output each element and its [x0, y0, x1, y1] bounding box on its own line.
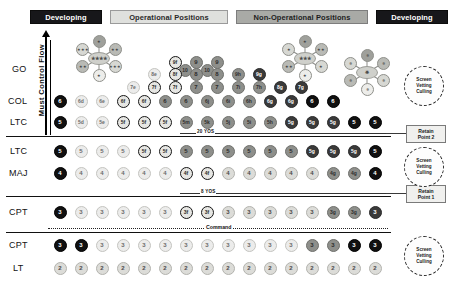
node-ltc-3-4[interactable]: 5f [138, 145, 151, 158]
node-cpt-6-7[interactable]: 3 [201, 239, 214, 252]
node-lt-7-8[interactable]: 2 [222, 262, 235, 275]
node-lt-7-11[interactable]: 2 [285, 262, 298, 275]
node-ltc-2-14[interactable]: 5 [348, 116, 361, 129]
node-maj-4-15[interactable]: 4 [369, 167, 382, 180]
node-cpt-6-15[interactable]: 3 [369, 239, 382, 252]
node-ltc-3-8[interactable]: 5 [222, 145, 235, 158]
node-cpt-6-12[interactable]: 3 [306, 239, 319, 252]
node-maj-4-1[interactable]: 4 [75, 167, 88, 180]
node-maj-4-10[interactable]: 4 [264, 167, 277, 180]
node-cpt-6-6[interactable]: 3 [180, 239, 193, 252]
node-lt-7-2[interactable]: 2 [96, 262, 109, 275]
node-col-1-11[interactable]: 6g [285, 95, 298, 108]
node-ltc-2-12[interactable]: 5g [306, 116, 319, 129]
node-ltc-3-1[interactable]: 5 [75, 145, 88, 158]
node-maj-4-13[interactable]: 4g [327, 167, 340, 180]
node-col-1-2[interactable]: 6e [96, 95, 109, 108]
node-lt-7-3[interactable]: 2 [117, 262, 130, 275]
node-lt-7-13[interactable]: 2 [327, 262, 340, 275]
node-cpt-5-4[interactable]: 3 [138, 206, 151, 219]
node-cpt-5-1[interactable]: 3 [75, 206, 88, 219]
node-cpt-5-3[interactable]: 3 [117, 206, 130, 219]
node-go-0-7[interactable]: 8 [190, 68, 203, 81]
node-maj-4-12[interactable]: 4 [306, 167, 319, 180]
node-ltc-2-7[interactable]: 5k [201, 116, 214, 129]
node-go-0-16[interactable]: 7i [232, 81, 245, 94]
node-ltc-3-11[interactable]: 5 [285, 145, 298, 158]
node-ltc-3-7[interactable]: 5 [201, 145, 214, 158]
node-lt-7-7[interactable]: 2 [201, 262, 214, 275]
node-lt-7-9[interactable]: 2 [243, 262, 256, 275]
node-cpt-5-10[interactable]: 3 [264, 206, 277, 219]
node-cpt-5-8[interactable]: 3 [222, 206, 235, 219]
node-maj-4-4[interactable]: 4 [138, 167, 151, 180]
node-cpt-5-13[interactable]: 3g [327, 206, 340, 219]
node-go-0-3[interactable]: 9 [190, 56, 203, 69]
node-lt-7-4[interactable]: 2 [138, 262, 151, 275]
node-ltc-2-3[interactable]: 5f [117, 116, 130, 129]
node-lt-7-5[interactable]: 2 [159, 262, 172, 275]
node-maj-4-7[interactable]: 4f [201, 167, 214, 180]
node-go-0-10[interactable]: 9g [253, 68, 266, 81]
node-go-0-12[interactable]: 7f [148, 81, 161, 94]
node-cpt-6-2[interactable]: 3 [96, 239, 109, 252]
node-ltc-2-9[interactable]: 5i [243, 116, 256, 129]
node-col-1-12[interactable]: 6 [306, 95, 319, 108]
node-ltc-3-14[interactable]: 5g [348, 145, 361, 158]
node-lt-7-10[interactable]: 2 [264, 262, 277, 275]
node-ltc-3-0[interactable]: 5 [54, 145, 67, 158]
node-cpt-6-8[interactable]: 3 [222, 239, 235, 252]
node-maj-4-6[interactable]: 4f [180, 167, 193, 180]
node-ltc-2-5[interactable]: 5f [159, 116, 172, 129]
node-lt-7-15[interactable]: 2 [369, 262, 382, 275]
node-col-1-0[interactable]: 6 [54, 95, 67, 108]
node-lt-7-1[interactable]: 2 [75, 262, 88, 275]
node-go-0-6[interactable]: 8f [169, 68, 182, 81]
node-maj-4-9[interactable]: 4 [243, 167, 256, 180]
node-col-1-9[interactable]: 6h [243, 95, 256, 108]
node-go-0-8[interactable]: 8 [211, 68, 224, 81]
node-lt-7-6[interactable]: 2 [180, 262, 193, 275]
node-col-1-3[interactable]: 6f [117, 95, 130, 108]
node-maj-4-8[interactable]: 4 [222, 167, 235, 180]
node-col-1-4[interactable]: 6f [138, 95, 151, 108]
node-lt-7-0[interactable]: 2 [54, 262, 67, 275]
node-col-1-10[interactable]: 6g [264, 95, 277, 108]
node-cpt-5-6[interactable]: 3f [180, 206, 193, 219]
node-ltc-2-15[interactable]: 5 [369, 116, 382, 129]
node-go-0-17[interactable]: 7h [253, 81, 266, 94]
node-cpt-6-13[interactable]: 3 [327, 239, 340, 252]
node-go-0-15[interactable]: 7 [211, 81, 224, 94]
node-ltc-2-2[interactable]: 5e [96, 116, 109, 129]
node-maj-4-14[interactable]: 4g [348, 167, 361, 180]
node-ltc-3-9[interactable]: 5 [243, 145, 256, 158]
node-cpt-6-5[interactable]: 3 [159, 239, 172, 252]
node-cpt-5-14[interactable]: 3g [348, 206, 361, 219]
node-cpt-6-4[interactable]: 3 [138, 239, 151, 252]
node-ltc-2-13[interactable]: 5g [327, 116, 340, 129]
node-col-1-13[interactable]: 6 [327, 95, 340, 108]
node-ltc-3-2[interactable]: 5 [96, 145, 109, 158]
node-go-0-2[interactable]: 9f [169, 56, 182, 69]
node-lt-7-12[interactable]: 2 [306, 262, 319, 275]
node-ltc-2-11[interactable]: 5g [285, 116, 298, 129]
node-cpt-5-15[interactable]: 3 [369, 206, 382, 219]
node-go-0-13[interactable]: 7f [169, 81, 182, 94]
node-cpt-6-10[interactable]: 3 [264, 239, 277, 252]
node-ltc-2-4[interactable]: 5f [138, 116, 151, 129]
node-cpt-5-2[interactable]: 3 [96, 206, 109, 219]
node-col-1-6[interactable]: 6 [180, 95, 193, 108]
node-cpt-6-3[interactable]: 3 [117, 239, 130, 252]
node-ltc-2-0[interactable]: 5 [54, 116, 67, 129]
node-cpt-6-9[interactable]: 3 [243, 239, 256, 252]
node-cpt-6-14[interactable]: 3 [348, 239, 361, 252]
node-ltc-2-10[interactable]: 5h [264, 116, 277, 129]
node-ltc-2-6[interactable]: 5m [180, 116, 193, 129]
node-cpt-5-12[interactable]: 3 [306, 206, 319, 219]
node-maj-4-0[interactable]: 4 [54, 167, 67, 180]
node-ltc-3-5[interactable]: 5f [159, 145, 172, 158]
node-ltc-3-6[interactable]: 5 [180, 145, 193, 158]
node-go-0-5[interactable]: 8e [148, 68, 161, 81]
node-col-1-1[interactable]: 6d [75, 95, 88, 108]
node-ltc-2-1[interactable]: 5d [75, 116, 88, 129]
